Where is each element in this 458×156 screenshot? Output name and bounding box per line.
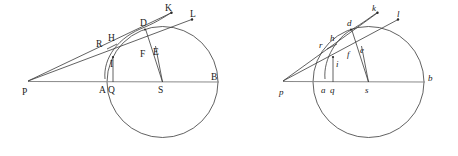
geometry-figure: P A Q S B R H I D F E K L <box>0 0 458 156</box>
right-label-e: e <box>360 45 364 55</box>
left-label-I: I <box>110 59 113 69</box>
left-label-B: B <box>211 72 217 82</box>
right-label-a: a <box>321 85 326 95</box>
left-label-R: R <box>96 39 103 49</box>
left-axis-PB <box>28 82 219 83</box>
left-label-L: L <box>190 9 196 19</box>
right-label-r: r <box>319 40 323 50</box>
right-label-f: f <box>347 49 351 59</box>
right-label-p: p <box>278 87 284 97</box>
left-label-K: K <box>165 3 172 13</box>
left-label-E: E <box>153 47 159 57</box>
right-axis-pb <box>283 82 425 83</box>
left-label-Q: Q <box>108 85 115 95</box>
right-label-i: i <box>336 59 339 69</box>
left-label-H: H <box>108 33 115 43</box>
right-label-k: k <box>372 3 377 13</box>
left-label-D: D <box>140 18 147 28</box>
left-arc-RHDK <box>105 12 172 79</box>
right-diagram: p a q s b r h i d f e k l <box>278 3 433 138</box>
left-label-P: P <box>22 87 27 97</box>
right-label-h: h <box>330 33 335 43</box>
left-label-A: A <box>99 85 106 95</box>
right-point-k <box>376 12 378 14</box>
right-label-d: d <box>347 18 352 28</box>
right-point-i <box>332 56 334 58</box>
left-point-I <box>112 56 114 58</box>
left-point-D <box>144 29 146 31</box>
right-label-b: b <box>428 73 433 83</box>
figure-canvas: P A Q S B R H I D F E K L <box>0 0 458 156</box>
right-point-d <box>350 29 352 31</box>
left-ray-PL <box>28 19 193 81</box>
right-label-q: q <box>330 85 335 95</box>
left-diagram: P A Q S B R H I D F E K L <box>22 3 219 138</box>
right-ray-pl <box>283 19 399 81</box>
right-label-s: s <box>365 85 369 95</box>
left-label-S: S <box>158 85 163 95</box>
left-label-F: F <box>140 49 145 59</box>
right-chord-rh <box>327 44 337 49</box>
right-label-l: l <box>397 9 400 19</box>
